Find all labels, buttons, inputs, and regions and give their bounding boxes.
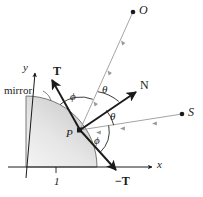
angle-theta-upper-label: θ bbox=[102, 84, 107, 95]
vector-n-label: N bbox=[140, 79, 149, 91]
incident-ray-direction-markers bbox=[96, 122, 157, 135]
point-p-marker bbox=[77, 128, 82, 133]
point-p-label: P bbox=[66, 128, 73, 139]
point-s-marker bbox=[180, 112, 185, 117]
mirror-quarter-disc bbox=[26, 96, 97, 167]
angle-phi-lower-label: ϕ bbox=[94, 135, 100, 146]
point-o-label: O bbox=[139, 4, 148, 16]
mirror-label: mirror bbox=[4, 85, 32, 96]
angle-arc-theta-upper bbox=[98, 92, 119, 102]
reflection-diagram bbox=[0, 0, 203, 197]
vector-t-label: T bbox=[53, 65, 61, 77]
reflected-ray-direction-markers bbox=[94, 41, 126, 107]
angle-phi-upper-label: ϕ bbox=[70, 91, 76, 102]
angle-theta-lower-label: θ bbox=[110, 111, 115, 122]
axis-y-label: y bbox=[23, 62, 28, 73]
point-s-label: S bbox=[188, 106, 194, 118]
axis-x-label: x bbox=[157, 159, 162, 170]
point-o-marker bbox=[131, 10, 136, 15]
radius-one-label: 1 bbox=[54, 176, 60, 187]
angle-arc-phi-lower bbox=[100, 125, 109, 152]
vector-minus-t-label: −T bbox=[115, 175, 130, 187]
incident-ray-s-to-p bbox=[80, 114, 182, 130]
